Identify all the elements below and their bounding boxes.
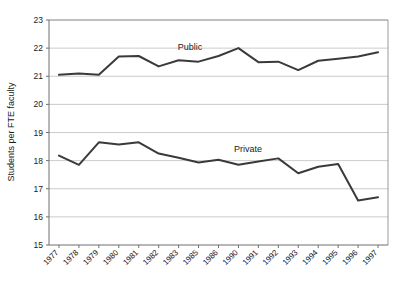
y-tick-label-22: 22 (34, 43, 44, 53)
y-axis-title: Students per FTE faculty (6, 82, 16, 182)
y-tick-label-20: 20 (34, 99, 44, 109)
y-tick-label-19: 19 (34, 128, 44, 138)
series-label-public: Public (178, 42, 203, 52)
y-tick-label-16: 16 (34, 212, 44, 222)
y-tick-label-15: 15 (34, 240, 44, 250)
series-label-private: Private (234, 144, 262, 154)
chart-figure: 151617181920212223 197719781979198019811… (0, 0, 404, 283)
y-tick-labels-group: 151617181920212223 (34, 15, 44, 250)
y-tick-label-21: 21 (34, 71, 44, 81)
y-tick-label-17: 17 (34, 184, 44, 194)
y-tick-label-18: 18 (34, 156, 44, 166)
line-chart: 151617181920212223 197719781979198019811… (0, 0, 404, 283)
y-tick-label-23: 23 (34, 15, 44, 25)
